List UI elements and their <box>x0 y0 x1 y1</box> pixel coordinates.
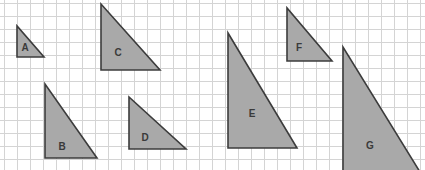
grid-layer <box>0 0 425 170</box>
triangles-figure: ACBDEFG <box>0 0 425 170</box>
